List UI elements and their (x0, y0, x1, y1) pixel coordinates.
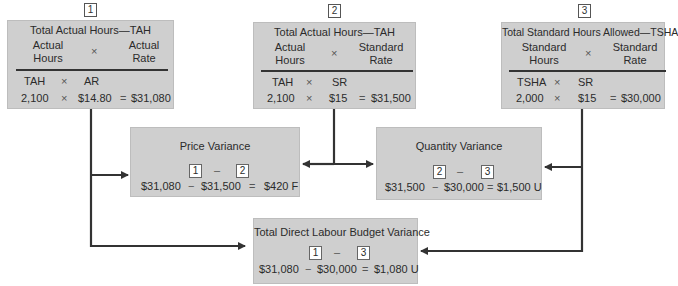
col-left-line2: Hours (516, 54, 572, 67)
price-variance-box-top: Price Variance (130, 127, 300, 157)
times-sign: × (554, 76, 560, 88)
divider (509, 70, 666, 72)
equals-sign: = (120, 92, 126, 104)
value-left: 2,100 (267, 92, 295, 104)
col-right-line1: Standard (352, 41, 410, 54)
variance-title: Total Direct Labour Budget Variance (254, 226, 417, 238)
ref-step-b: 2 (236, 164, 249, 178)
symbol-right: SR (332, 76, 347, 88)
col-left-header: Standard Hours (516, 41, 572, 67)
times-sign: × (331, 47, 337, 59)
symbol-right: AR (84, 75, 99, 87)
value-right: $15 (578, 92, 596, 104)
box-title: Total Actual Hours—TAH (254, 26, 415, 38)
divider (16, 69, 168, 71)
times-sign: × (61, 75, 67, 87)
value-left: 2,100 (21, 92, 49, 104)
col-left-line2: Hours (24, 52, 72, 65)
col-left-line1: Actual (266, 41, 314, 54)
equals-sign: = (249, 180, 255, 192)
box-title: Total Actual Hours—TAH (8, 24, 173, 36)
value-b: $30,000 (317, 263, 357, 275)
budget-variance-box: Total Direct Labour Budget Variance 1 – … (253, 218, 418, 284)
variance-title: Price Variance (131, 140, 299, 152)
minus-sign: – (457, 165, 463, 177)
col-right-line1: Standard (606, 41, 664, 54)
value-b: $30,000 (444, 181, 484, 193)
quantity-variance-box: Quantity Variance 2 – 3 $31,500 − $30,00… (376, 127, 542, 200)
total-actual-hours-box-2: Total Actual Hours—TAH Actual Hours × St… (253, 22, 416, 109)
step-number-1: 1 (84, 3, 97, 17)
times-sign: × (61, 92, 67, 104)
minus-sign: − (188, 180, 194, 192)
result: $31,080 (131, 92, 171, 104)
box-title: Total Standard Hours Allowed—TSHA (502, 26, 664, 38)
value-a: $31,080 (141, 180, 181, 192)
divider (261, 70, 413, 72)
ref-step-b: 3 (481, 165, 494, 179)
price-variance-box: Price Variance 1 – 2 $31,080 − $31,500 =… (130, 155, 300, 197)
minus-sign: – (334, 246, 340, 258)
value-right: $14.80 (78, 92, 112, 104)
result: $30,000 (621, 92, 661, 104)
value-left: 2,000 (516, 92, 544, 104)
value-a: $31,080 (259, 263, 299, 275)
col-right-line2: Rate (352, 54, 410, 67)
variance-result: $420 F (264, 180, 298, 192)
symbol-right: SR (578, 76, 593, 88)
equals-sign: = (610, 92, 616, 104)
ref-step-b: 3 (357, 246, 370, 260)
variance-result: $1,500 U (497, 181, 542, 193)
col-right-line2: Rate (606, 54, 664, 67)
total-actual-hours-box-1: Total Actual Hours—TAH Actual Hours × Ac… (7, 20, 174, 109)
equals-sign: = (359, 92, 365, 104)
value-a: $31,500 (385, 181, 425, 193)
ref-step-a: 1 (189, 164, 202, 178)
symbol-left: TSHA (517, 76, 546, 88)
variance-title: Quantity Variance (377, 140, 541, 152)
times-sign: × (306, 76, 312, 88)
times-sign: × (306, 92, 312, 104)
step-number-3: 3 (578, 4, 591, 18)
times-sign: × (554, 92, 560, 104)
value-b: $31,500 (201, 180, 241, 192)
result: $31,500 (371, 92, 411, 104)
col-right-line1: Actual (120, 39, 168, 52)
times-sign: × (91, 45, 97, 57)
col-left-line1: Actual (24, 39, 72, 52)
equals-sign: = (362, 263, 368, 275)
minus-sign: – (214, 164, 220, 176)
symbol-left: TAH (24, 75, 45, 87)
minus-sign: − (432, 181, 438, 193)
col-right-header: Actual Rate (120, 39, 168, 65)
symbol-left: TAH (272, 76, 293, 88)
col-left-line1: Standard (516, 41, 572, 54)
col-left-line2: Hours (266, 54, 314, 67)
col-right-header: Standard Rate (606, 41, 664, 67)
col-left-header: Actual Hours (24, 39, 72, 65)
equals-sign: = (487, 181, 493, 193)
variance-result: $1,080 U (374, 263, 419, 275)
col-left-header: Actual Hours (266, 41, 314, 67)
step-number-2: 2 (328, 4, 341, 18)
total-standard-hours-box-3: Total Standard Hours Allowed—TSHA Standa… (501, 22, 665, 109)
col-right-line2: Rate (120, 52, 168, 65)
col-right-header: Standard Rate (352, 41, 410, 67)
ref-step-a: 2 (433, 165, 446, 179)
times-sign: × (585, 47, 591, 59)
value-right: $15 (329, 92, 347, 104)
ref-step-a: 1 (309, 246, 322, 260)
minus-sign: − (305, 263, 311, 275)
